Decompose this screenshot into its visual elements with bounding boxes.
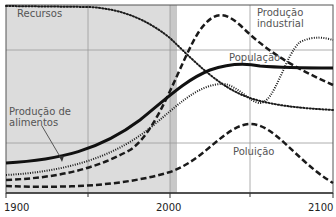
- x-tick-1900: 1900: [4, 202, 29, 213]
- x-tick-2100: 2100: [308, 202, 333, 213]
- x-tick-2000: 2000: [156, 202, 181, 213]
- world-model-chart: Recursos Produção industrial População P…: [0, 0, 336, 217]
- label-alimentos-1: Produção de: [9, 106, 71, 117]
- label-producao-industrial-2: industrial: [257, 18, 304, 29]
- label-poluicao: Poluição: [233, 146, 274, 157]
- label-producao-industrial-1: Produção: [257, 7, 303, 18]
- label-alimentos-2: alimentos: [9, 117, 58, 128]
- historical-shaded-region: [6, 5, 171, 193]
- label-populacao: População: [229, 52, 280, 63]
- shaded-region-edge: [170, 5, 177, 193]
- label-recursos: Recursos: [17, 8, 62, 19]
